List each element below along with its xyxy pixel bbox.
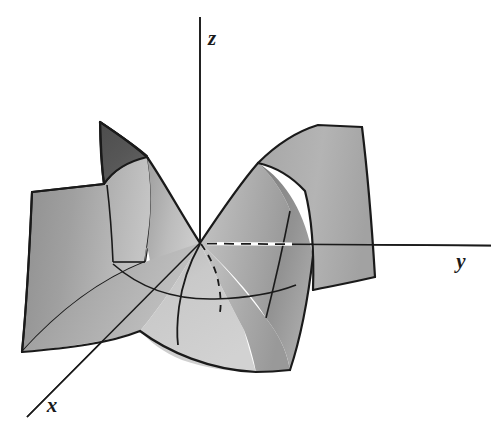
x-axis-label: x: [46, 393, 58, 417]
surface-figure-svg: z y x: [0, 0, 504, 441]
surface-group: [22, 122, 375, 372]
figure-container: z y x: [0, 0, 504, 441]
z-axis-label: z: [207, 26, 217, 50]
y-axis-label: y: [453, 249, 466, 273]
